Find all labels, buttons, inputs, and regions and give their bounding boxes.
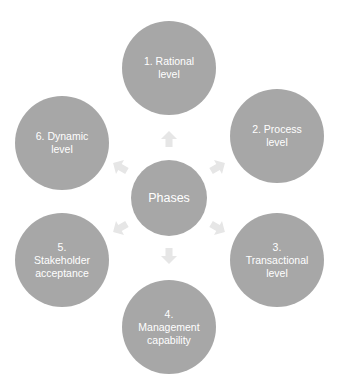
node-process-level: 2. Process level bbox=[230, 89, 324, 183]
node-stakeholder-acceptance: 5. Stakeholder acceptance bbox=[15, 213, 109, 307]
arrow-down-icon bbox=[160, 247, 178, 265]
arrow-up-left-icon bbox=[111, 158, 129, 176]
node-transactional-level: 3. Transactional level bbox=[230, 213, 324, 307]
center-node-label: Phases bbox=[148, 191, 190, 205]
arrow-down-left-icon bbox=[111, 219, 129, 237]
node-label: 4. Management capability bbox=[138, 308, 199, 347]
center-node-phases: Phases bbox=[131, 160, 207, 236]
node-management-capability: 4. Management capability bbox=[122, 280, 216, 374]
arrow-up-icon bbox=[160, 130, 178, 148]
node-dynamic-level: 6. Dynamic level bbox=[15, 96, 109, 190]
node-rational-level: 1. Rational level bbox=[122, 21, 216, 115]
node-label: 5. Stakeholder acceptance bbox=[34, 241, 90, 280]
node-label: 3. Transactional level bbox=[246, 241, 309, 280]
arrow-down-right-icon bbox=[209, 219, 227, 237]
node-label: 6. Dynamic level bbox=[36, 130, 89, 156]
arrow-up-right-icon bbox=[209, 158, 227, 176]
node-label: 1. Rational level bbox=[144, 55, 194, 81]
node-label: 2. Process level bbox=[252, 123, 302, 149]
